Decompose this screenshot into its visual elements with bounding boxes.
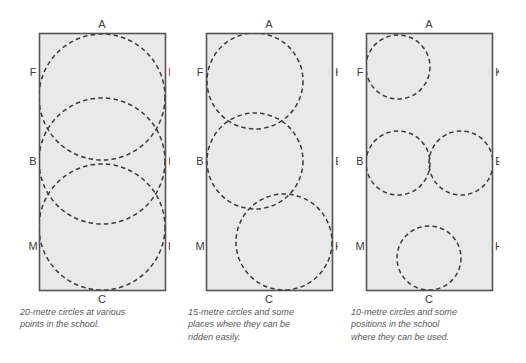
caption-10m: 10-metre circles and some positions in t… (351, 306, 501, 343)
caption-line: points in the school. (20, 318, 170, 330)
marker-F: F (357, 66, 364, 78)
marker-B: B (29, 155, 36, 167)
arena-svg-15m: A C F K B E M H (168, 0, 338, 310)
marker-B: B (196, 155, 203, 167)
marker-M: M (355, 240, 364, 252)
panel-20m: A C F K B E M H 20-metre circles at vari… (0, 0, 170, 363)
caption-line: 15-metre circles and some (188, 306, 338, 318)
marker-K: K (495, 66, 499, 78)
marker-F: F (197, 66, 204, 78)
caption-15m: 15-metre circles and some places where t… (188, 306, 338, 343)
arena-15m: A C F K B E M H (168, 0, 338, 310)
marker-E: E (495, 155, 499, 167)
marker-C: C (265, 293, 273, 305)
marker-B: B (356, 155, 363, 167)
marker-M: M (195, 240, 204, 252)
arena-10m: A C F K B E M H (329, 0, 499, 310)
caption-20m: 20-metre circles at various points in th… (20, 306, 170, 331)
arena-svg-10m: A C F K B E M H (329, 0, 499, 310)
caption-line: ridden easily. (188, 331, 338, 343)
arena-svg-20m: A C F K B E M H (0, 0, 170, 310)
marker-A: A (425, 18, 433, 30)
caption-line: positions in the school (351, 318, 501, 330)
marker-H: H (495, 240, 499, 252)
caption-line: 20-metre circles at various (20, 306, 170, 318)
caption-line: 10-metre circles and some (351, 306, 501, 318)
dressage-school-circles-figure: A C F K B E M H 20-metre circles at vari… (0, 0, 526, 363)
marker-A: A (265, 18, 273, 30)
caption-line: places where they can be (188, 318, 338, 330)
panel-10m: A C F K B E M H 10-metre circles and som… (329, 0, 499, 363)
marker-C: C (98, 293, 106, 305)
arena-rectangle (40, 34, 166, 291)
arena-rectangle (207, 34, 333, 291)
marker-A: A (98, 18, 106, 30)
arena-20m: A C F K B E M H (0, 0, 170, 310)
caption-line: where they can be used. (351, 331, 501, 343)
marker-C: C (425, 293, 433, 305)
panel-15m: A C F K B E M H 15-metre circles and som… (168, 0, 338, 363)
marker-M: M (28, 240, 37, 252)
marker-F: F (30, 66, 37, 78)
